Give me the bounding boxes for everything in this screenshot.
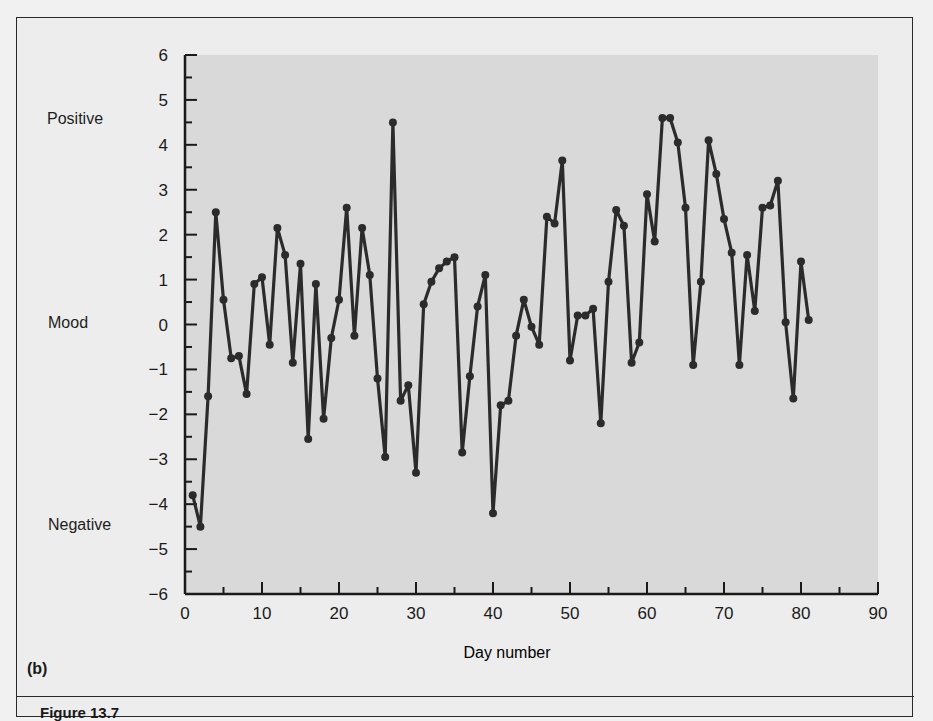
data-point [474,303,482,311]
data-point [273,224,281,232]
x-tick-label: 50 [561,604,580,623]
y-tick-label: 2 [159,226,168,245]
data-point [374,374,382,382]
data-point [489,509,497,517]
y-tick-label: 6 [159,46,168,65]
x-tick-label: 80 [792,604,811,623]
data-point [782,318,790,326]
data-point [535,341,543,349]
negative-label: Negative [48,516,111,534]
data-point [289,359,297,367]
x-tick-label: 70 [715,604,734,623]
data-point [350,332,358,340]
data-point [789,395,797,403]
y-tick-label: −2 [149,405,168,424]
data-point [451,253,459,261]
data-point [404,381,412,389]
data-point [712,170,720,178]
y-tick-label: 5 [159,91,168,110]
data-point [327,334,335,342]
data-point [343,204,351,212]
x-tick-label: 10 [253,604,272,623]
y-tick-label: −5 [149,540,168,559]
data-point [528,323,536,331]
data-point [220,296,228,304]
data-point [481,271,489,279]
data-point [335,296,343,304]
x-tick-label: 0 [180,604,189,623]
data-point [651,237,659,245]
data-point [196,523,204,531]
data-point [620,222,628,230]
data-point [266,341,274,349]
y-tick-label: −3 [149,450,168,469]
data-point [543,213,551,221]
y-tick-label: 3 [159,181,168,200]
data-point [674,139,682,147]
data-point [705,136,713,144]
data-point [497,401,505,409]
data-point [612,206,620,214]
data-point [427,278,435,286]
data-point [281,251,289,259]
x-axis-title: Day number [463,644,551,661]
data-point [458,449,466,457]
y-tick-label: −1 [149,360,168,379]
data-point [320,415,328,423]
data-point [204,392,212,400]
data-point [735,361,743,369]
data-point [605,278,613,286]
data-point [774,177,782,185]
y-tick-label: 4 [159,136,168,155]
data-point [658,114,666,122]
data-point [397,397,405,405]
data-point [212,208,220,216]
data-point [366,271,374,279]
data-point [466,372,474,380]
x-tick-label: 40 [484,604,503,623]
mood-label: Mood [48,314,88,332]
y-tick-label: 0 [159,316,168,335]
data-point [697,278,705,286]
x-tick-label: 20 [330,604,349,623]
data-point [358,224,366,232]
data-point [443,258,451,266]
data-point [743,251,751,259]
data-point [381,453,389,461]
data-point [504,397,512,405]
data-point [258,273,266,281]
data-point [420,300,428,308]
data-point [235,352,243,360]
data-point [297,260,305,268]
data-point [558,157,566,165]
data-point [728,249,736,257]
data-point [666,114,674,122]
data-point [581,312,589,320]
data-point [766,201,774,209]
y-tick-label: 1 [159,271,168,290]
panel-label: (b) [27,660,47,678]
data-point [189,491,197,499]
data-point [805,316,813,324]
data-point [312,280,320,288]
data-point [574,312,582,320]
positive-label: Positive [47,110,103,128]
data-point [512,332,520,340]
data-point [551,219,559,227]
data-point [520,296,528,304]
data-point [751,307,759,315]
x-tick-label: 90 [869,604,888,623]
data-point [389,118,397,126]
data-point [589,305,597,313]
data-point [720,215,728,223]
data-point [759,204,767,212]
x-tick-label: 30 [407,604,426,623]
data-point [304,435,312,443]
data-point [250,280,258,288]
data-point [597,419,605,427]
y-tick-label: −4 [149,495,168,514]
data-point [797,258,805,266]
data-point [227,354,235,362]
data-point [689,361,697,369]
